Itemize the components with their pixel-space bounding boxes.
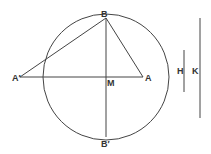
segment-a-prime-b [20, 18, 106, 77]
label-b: B [101, 9, 108, 19]
segment-ba [106, 18, 143, 77]
geometry-diagram: B B′ A′ A M H K [0, 0, 211, 154]
label-k: K [192, 66, 199, 76]
label-m: M [107, 78, 115, 88]
label-h: H [177, 66, 184, 76]
label-b-prime: B′ [101, 139, 110, 149]
label-a: A [145, 73, 152, 83]
label-a-prime: A′ [12, 73, 21, 83]
